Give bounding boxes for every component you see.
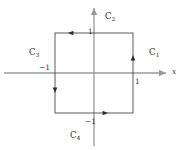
- tick-label-y-positive-one: 1: [88, 28, 93, 36]
- direction-arrow-c1-up: [131, 55, 136, 60]
- direction-arrow-c3-down: [53, 88, 58, 93]
- curve-label-c1-subscript: 1: [156, 52, 160, 58]
- curve-label-c3: C3: [29, 48, 39, 57]
- curve-label-c3-base: C: [29, 47, 36, 57]
- diagram-canvas: [0, 0, 192, 150]
- curve-label-c1: C1: [149, 48, 159, 57]
- tick-label-y-negative-one: −1: [85, 118, 96, 126]
- direction-arrow-c4-right: [103, 111, 108, 116]
- curve-label-c3-subscript: 3: [36, 52, 40, 58]
- curve-label-c4-base: C: [70, 130, 77, 140]
- curve-label-c2-base: C: [105, 11, 112, 21]
- direction-arrow-c2-left: [68, 31, 73, 36]
- tick-label-x-positive-one: 1: [135, 78, 140, 86]
- contour-integral-diagram: C1 C2 C3 C4 1 −1 1 −1 x: [0, 0, 192, 150]
- tick-label-x-negative-one: −1: [39, 64, 50, 72]
- curve-label-c2: C2: [105, 12, 115, 21]
- x-axis-label: x: [172, 68, 176, 76]
- curve-label-c4: C4: [70, 131, 80, 140]
- curve-label-c2-subscript: 2: [112, 16, 116, 22]
- curve-label-c1-base: C: [149, 47, 156, 57]
- curve-label-c4-subscript: 4: [77, 135, 81, 141]
